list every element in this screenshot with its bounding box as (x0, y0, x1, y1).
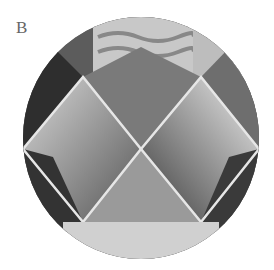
panel-label: B (16, 18, 27, 38)
smocking-illustration (23, 17, 259, 259)
fabric-photo (23, 17, 259, 259)
